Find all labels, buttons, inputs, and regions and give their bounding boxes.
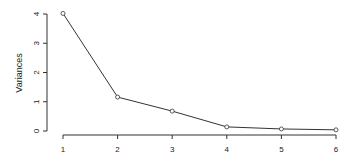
plot-area: Variances 01234 123456 bbox=[0, 0, 355, 162]
y-axis-label: Variances bbox=[14, 53, 24, 93]
data-point bbox=[116, 95, 120, 99]
x-tick-label: 6 bbox=[334, 145, 339, 154]
x-tick-label: 5 bbox=[279, 145, 284, 154]
series-line bbox=[63, 13, 336, 129]
data-point bbox=[225, 125, 229, 129]
x-tick-label: 1 bbox=[61, 145, 66, 154]
scree-plot: Variances 01234 123456 bbox=[0, 0, 355, 162]
x-tick-label: 3 bbox=[170, 145, 175, 154]
data-point bbox=[334, 128, 338, 132]
y-axis: 01234 bbox=[32, 11, 47, 133]
y-tick-label: 2 bbox=[32, 70, 41, 75]
data-point bbox=[61, 11, 65, 15]
y-tick-label: 3 bbox=[32, 40, 41, 45]
y-tick-label: 0 bbox=[32, 128, 41, 133]
x-axis: 123456 bbox=[61, 135, 339, 154]
data-points bbox=[61, 11, 338, 131]
y-tick-label: 4 bbox=[32, 11, 41, 16]
y-tick-label: 1 bbox=[32, 99, 41, 104]
x-tick-label: 2 bbox=[115, 145, 120, 154]
data-point bbox=[279, 127, 283, 131]
x-tick-label: 4 bbox=[225, 145, 230, 154]
data-point bbox=[170, 109, 174, 113]
